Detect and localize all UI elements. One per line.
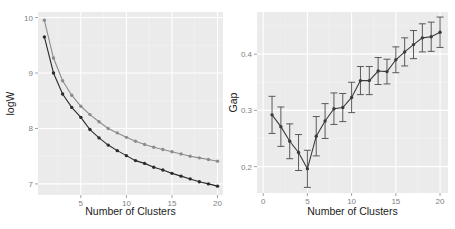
data-point [350, 96, 353, 99]
x-tick-label: 5 [79, 199, 84, 208]
data-point [306, 167, 309, 170]
y-axis-title: logW [4, 91, 16, 115]
data-point [385, 70, 388, 73]
chart-canvas: 510152078910Number of ClusterslogW 05101… [0, 0, 455, 229]
data-point [207, 182, 210, 185]
logw-plot-panel: 510152078910Number of ClusterslogW [4, 12, 223, 217]
data-point [216, 184, 219, 187]
data-point [43, 19, 46, 22]
data-point [216, 159, 219, 162]
data-point [179, 174, 182, 177]
y-tick-label: 0.2 [241, 163, 253, 172]
data-point [143, 143, 146, 146]
x-tick-label: 20 [436, 197, 445, 206]
x-tick-label: 0 [261, 197, 266, 206]
figure: 510152078910Number of ClusterslogW 05101… [0, 0, 455, 229]
data-point [438, 31, 441, 34]
data-point [412, 43, 415, 46]
data-point [341, 106, 344, 109]
data-point [368, 79, 371, 82]
data-point [61, 79, 64, 82]
data-point [116, 149, 119, 152]
data-point [421, 36, 424, 39]
data-point [179, 152, 182, 155]
data-point [70, 106, 73, 109]
y-tick-label: 7 [29, 180, 34, 189]
data-point [61, 92, 64, 95]
data-point [429, 35, 432, 38]
data-point [279, 125, 282, 128]
data-point [116, 131, 119, 134]
data-point [52, 71, 55, 74]
data-point [188, 177, 191, 180]
x-axis-title: Number of Clusters [307, 205, 397, 217]
data-point [170, 150, 173, 153]
data-point [161, 148, 164, 151]
data-point [134, 159, 137, 162]
data-point [170, 172, 173, 175]
data-point [152, 166, 155, 169]
plot-background [257, 12, 448, 193]
y-tick-label: 8 [29, 124, 34, 133]
data-point [376, 69, 379, 72]
y-tick-label: 0.4 [241, 50, 253, 59]
data-point [323, 119, 326, 122]
data-point [198, 156, 201, 159]
data-point [315, 135, 318, 138]
data-point [288, 140, 291, 143]
data-point [207, 158, 210, 161]
x-tick-label: 20 [213, 199, 222, 208]
data-point [106, 127, 109, 130]
data-point [394, 58, 397, 61]
data-point [143, 162, 146, 165]
data-point [297, 151, 300, 154]
data-point [134, 140, 137, 143]
data-point [152, 146, 155, 149]
data-point [97, 120, 100, 123]
gap-plot-panel: 051015200.20.30.4Number of ClustersGap [227, 12, 448, 217]
data-point [43, 35, 46, 38]
y-tick-label: 0.3 [241, 106, 253, 115]
data-point [403, 50, 406, 53]
data-point [188, 154, 191, 157]
data-point [70, 93, 73, 96]
data-point [97, 136, 100, 139]
data-point [125, 154, 128, 157]
data-point [359, 79, 362, 82]
data-point [270, 113, 273, 116]
data-point [106, 143, 109, 146]
plot-background [38, 12, 223, 195]
data-point [79, 116, 82, 119]
data-point [88, 113, 91, 116]
y-tick-label: 10 [24, 14, 33, 23]
data-point [125, 136, 128, 139]
data-point [79, 105, 82, 108]
data-point [52, 56, 55, 59]
data-point [332, 107, 335, 110]
data-point [198, 180, 201, 183]
data-point [161, 168, 164, 171]
y-axis-title: Gap [227, 92, 239, 112]
data-point [88, 128, 91, 131]
y-tick-label: 9 [29, 69, 34, 78]
x-axis-title: Number of Clusters [85, 205, 175, 217]
